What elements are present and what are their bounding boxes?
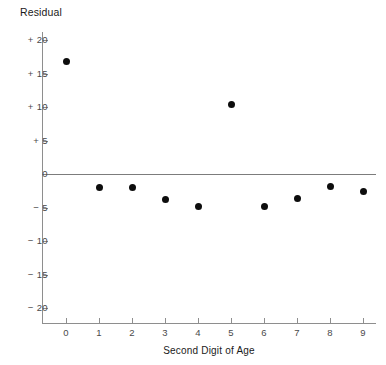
x-axis-tick-label: 1 (89, 327, 109, 338)
x-axis-tick-label: 7 (287, 327, 307, 338)
x-axis-title: Second Digit of Age (42, 345, 376, 356)
data-point (327, 183, 334, 190)
x-axis-tick-mark (231, 318, 232, 323)
y-axis-tick-label: + 5 (14, 135, 48, 146)
residual-scatter-chart: Residual + 20+ 15+ 10+ 50− 5− 10− 15− 20… (0, 0, 386, 365)
y-axis-tick-label: + 20 (14, 34, 48, 45)
x-axis-tick-mark (99, 318, 100, 323)
y-axis-tick-label: + 10 (14, 101, 48, 112)
x-axis-tick-mark (132, 318, 133, 323)
x-axis-tick-label: 4 (188, 327, 208, 338)
x-axis-tick-label: 5 (221, 327, 241, 338)
data-point (162, 196, 169, 203)
x-axis-tick-mark (363, 318, 364, 323)
x-axis-tick-mark (66, 318, 67, 323)
zero-reference-line (42, 174, 376, 175)
x-axis-tick-label: 8 (320, 327, 340, 338)
x-axis-tick-mark (198, 318, 199, 323)
y-axis-tick-label: + 15 (14, 68, 48, 79)
x-axis-line (42, 323, 376, 324)
y-axis-title: Residual (20, 6, 62, 18)
x-axis-tick-label: 3 (155, 327, 175, 338)
x-axis-tick-label: 6 (254, 327, 274, 338)
data-point (195, 203, 202, 210)
x-axis-tick-mark (165, 318, 166, 323)
x-axis-tick-mark (297, 318, 298, 323)
data-point (294, 195, 301, 202)
x-axis-tick-mark (264, 318, 265, 323)
data-point (129, 184, 136, 191)
data-point (63, 58, 70, 65)
y-axis-tick-label: − 10 (14, 235, 48, 246)
x-axis-tick-mark (330, 318, 331, 323)
y-axis-tick-label: − 20 (14, 302, 48, 313)
data-point (261, 203, 268, 210)
x-axis-tick-label: 2 (122, 327, 142, 338)
y-axis-tick-label: 0 (14, 168, 48, 179)
y-axis-tick-label: − 15 (14, 269, 48, 280)
data-point (360, 188, 367, 195)
data-point (96, 184, 103, 191)
y-axis-tick-label: − 5 (14, 202, 48, 213)
data-point (228, 101, 235, 108)
x-axis-tick-label: 0 (56, 327, 76, 338)
x-axis-tick-label: 9 (353, 327, 373, 338)
